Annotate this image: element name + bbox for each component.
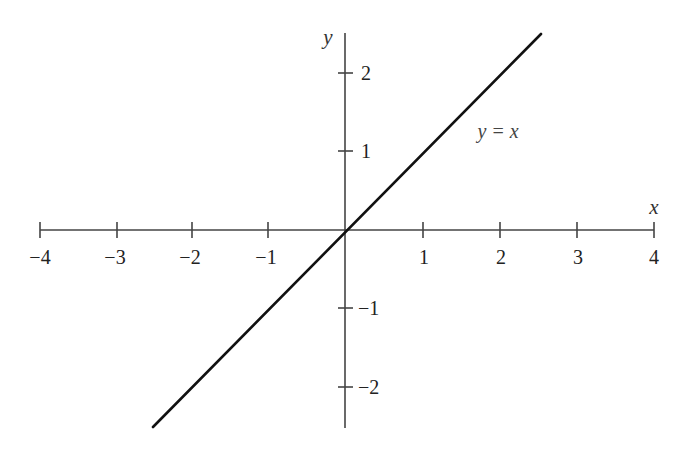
x-tick-labels: −4 −3 −2 −1 1 2 3 4	[29, 246, 659, 268]
coordinate-plane: −4 −3 −2 −1 1 2 3 4 2 1 −1 −2 y x y = x	[0, 0, 688, 455]
x-tick-label: −3	[104, 246, 125, 268]
x-tick-label: 4	[649, 246, 659, 268]
y-tick-label: 2	[361, 62, 371, 84]
y-tick-label: −2	[358, 376, 379, 398]
equation-label: y = x	[475, 120, 518, 143]
y-tick-label: 1	[361, 140, 371, 162]
x-tick-label: −4	[29, 246, 50, 268]
x-tick-label: 2	[496, 246, 506, 268]
y-axis-label: y	[321, 25, 333, 49]
x-tick-label: 3	[573, 246, 583, 268]
y-tick-label: −1	[358, 297, 379, 319]
x-axis-label: x	[648, 195, 659, 219]
x-tick-label: −1	[255, 246, 276, 268]
x-tick-label: −2	[179, 246, 200, 268]
x-tick-label: 1	[419, 246, 429, 268]
